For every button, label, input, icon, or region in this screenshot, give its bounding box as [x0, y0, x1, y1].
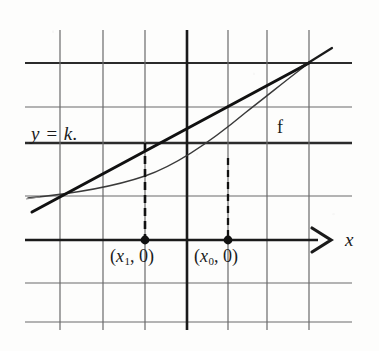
- label-point-x1: (x1, 0): [110, 247, 154, 267]
- point-marker-x0: [224, 236, 233, 245]
- secant-line-extension: [300, 48, 332, 68]
- label-point-x0: (x0, 0): [194, 247, 238, 267]
- grid-lines: [25, 30, 352, 330]
- graph-canvas: [0, 0, 379, 351]
- label-point-x0-var: x: [200, 246, 208, 266]
- point-marker-x1: [141, 236, 150, 245]
- label-point-x0-rest: , 0): [214, 246, 238, 266]
- label-point-x1-var: x: [116, 246, 124, 266]
- label-curve-f: f: [277, 118, 283, 136]
- label-x-axis: x: [345, 230, 353, 249]
- label-y-equals-k: y = k.: [31, 124, 78, 143]
- math-figure: y = k. f x (x1, 0) (x0, 0): [0, 0, 379, 351]
- label-point-x1-rest: , 0): [130, 246, 154, 266]
